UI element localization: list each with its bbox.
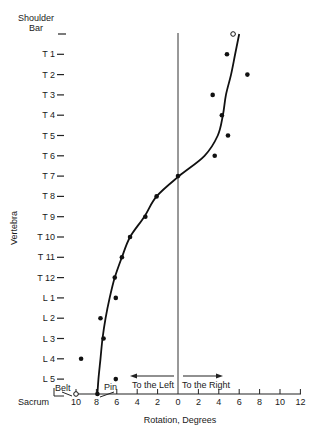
y-tick-label: T 11 [38, 252, 55, 262]
y-tick-label: T 1 [42, 49, 55, 59]
x-tick-label: 12 [295, 397, 305, 407]
x-axis-title: Rotation, Degrees [144, 415, 217, 425]
data-point [225, 52, 230, 57]
x-tick-label: 2 [196, 397, 201, 407]
y-tick-label: L 3 [43, 334, 55, 344]
data-point [176, 174, 181, 179]
data-point [101, 336, 106, 341]
y-tick-label: T 8 [42, 191, 55, 201]
data-point [245, 72, 250, 77]
x-tick-label: 6 [114, 397, 119, 407]
shoulder-bar-label-line2: Bar [29, 23, 43, 33]
x-tick-label: 10 [71, 397, 81, 407]
data-point [79, 357, 84, 362]
y-tick-label: T 6 [42, 151, 55, 161]
right-arrow-head [216, 374, 223, 379]
x-axis-labels: 108642024681012 [71, 397, 305, 407]
y-tick-label: L 2 [43, 313, 55, 323]
data-point [98, 316, 103, 321]
reference-point [74, 392, 79, 397]
to-the-left-label: To the Left [132, 380, 175, 390]
data-points [74, 32, 250, 397]
data-point [120, 255, 125, 260]
y-tick-label: T 3 [42, 90, 55, 100]
y-tick-label: T 5 [42, 131, 55, 141]
x-tick-label: 4 [216, 397, 221, 407]
left-arrow-head [130, 374, 137, 379]
x-tick-label: 6 [237, 397, 242, 407]
data-point [143, 214, 148, 219]
y-tick-label: T 12 [37, 273, 55, 283]
y-tick-label: T 7 [42, 171, 55, 181]
y-tick-label: T 10 [37, 232, 55, 242]
data-point [113, 296, 118, 301]
to-the-right-label: To the Right [182, 380, 231, 390]
shoulder-bar-label-line1: Shoulder [18, 13, 54, 23]
pin-label: Pin [104, 382, 117, 392]
x-tick-label: 10 [275, 397, 285, 407]
data-point [113, 377, 118, 382]
x-tick-label: 2 [155, 397, 160, 407]
x-tick-label: 8 [257, 397, 262, 407]
vertebra-rotation-chart: T 1T 2T 3T 4T 5T 6T 7T 8T 9T 10T 11T 12L… [0, 0, 320, 441]
sacrum-label: Sacrum [18, 397, 49, 407]
y-tick-label: L 4 [43, 354, 55, 364]
data-point [128, 235, 133, 240]
data-point [210, 93, 215, 98]
y-tick-label: T 2 [42, 70, 55, 80]
data-point [226, 133, 231, 138]
y-axis-title: Vertebra [9, 211, 19, 245]
data-point [112, 275, 117, 280]
data-point [220, 113, 225, 118]
y-tick-label: L 5 [43, 374, 55, 384]
y-axis-ticks [57, 34, 66, 379]
y-axis-labels: T 1T 2T 3T 4T 5T 6T 7T 8T 9T 10T 11T 12L… [37, 49, 55, 384]
x-tick-label: 0 [175, 397, 180, 407]
data-point [154, 194, 159, 199]
data-point [212, 154, 217, 159]
x-tick-label: 4 [135, 397, 140, 407]
y-tick-label: L 1 [43, 293, 55, 303]
reference-point [231, 32, 236, 37]
belt-label: Belt [55, 383, 71, 393]
data-point [95, 392, 100, 397]
fitted-curve [97, 34, 239, 394]
y-tick-label: T 9 [42, 212, 55, 222]
x-tick-label: 8 [94, 397, 99, 407]
y-tick-label: T 4 [42, 110, 55, 120]
